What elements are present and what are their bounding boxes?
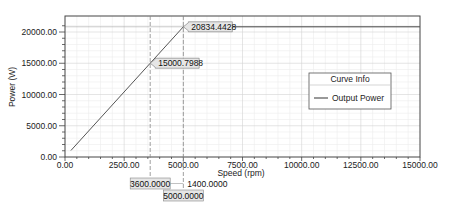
y-tick-label: 10000.00: [22, 90, 58, 100]
legend: Curve Info Output Power: [309, 73, 391, 109]
power-speed-chart: 0.005000.0010000.0015000.0020000.00 0.00…: [0, 0, 449, 209]
y-tick-label: 20000.00: [22, 27, 58, 37]
legend-entry-output-power: Output Power: [332, 93, 384, 103]
x-marker-label-1: 3600.0000: [130, 179, 170, 189]
y-tick-label: 15000.00: [22, 58, 58, 68]
y-tick-label: 0.00: [40, 152, 57, 162]
y-marker-callout: 20834.4428: [191, 22, 236, 32]
y-tick-label: 5000.00: [26, 121, 57, 131]
y-axis-tick-labels: 0.005000.0010000.0015000.0020000.00: [22, 27, 58, 162]
y-axis-ticks: [59, 26, 65, 157]
marker-delta-label: 1400.0000: [187, 179, 227, 189]
x-tick-label: 12500.00: [343, 160, 379, 170]
legend-title: Curve Info: [330, 74, 369, 84]
x-tick-label: 15000.00: [402, 160, 438, 170]
x-axis-title: Speed (rpm): [217, 168, 264, 178]
y-marker-callout: 15000.7988: [158, 58, 203, 68]
x-tick-label: 0.00: [57, 160, 74, 170]
x-marker-label-2: 5000.0000: [163, 191, 203, 201]
x-tick-label: 2500.00: [109, 160, 140, 170]
x-tick-label: 10000.00: [284, 160, 320, 170]
y-axis-title: Power (W): [7, 67, 17, 107]
